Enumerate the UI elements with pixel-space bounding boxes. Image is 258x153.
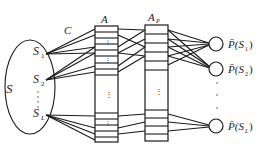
svg-text:): ) bbox=[249, 120, 253, 133]
layer-ap: A P ⋮ bbox=[145, 11, 168, 141]
diagram-canvas: S C S 1 S 2 S L bbox=[0, 0, 258, 153]
svg-text:⋮: ⋮ bbox=[105, 57, 111, 63]
input-node-sl: S L bbox=[33, 106, 45, 122]
svg-text:L: L bbox=[40, 114, 45, 122]
output-dots bbox=[216, 82, 217, 108]
svg-text:1: 1 bbox=[41, 52, 45, 60]
svg-text:2: 2 bbox=[41, 80, 45, 88]
output-node-l: P̄(S L ) bbox=[209, 119, 253, 134]
input-node-s2: S 2 bbox=[33, 72, 45, 88]
layer-a-label: A bbox=[100, 13, 108, 25]
output-node-1: P̄(S 1 ) bbox=[209, 37, 253, 52]
layer-ap-subscript: P bbox=[155, 18, 160, 24]
svg-text:): ) bbox=[249, 38, 253, 51]
svg-text:): ) bbox=[249, 63, 253, 76]
svg-text:P̄(S: P̄(S bbox=[227, 120, 244, 133]
svg-text:S: S bbox=[33, 72, 39, 86]
svg-text:P̄(S: P̄(S bbox=[227, 38, 244, 51]
layer-ap-label: A bbox=[147, 11, 155, 23]
connections-a-to-ap bbox=[118, 29, 145, 134]
output-node-2: P̄(S 2 ) bbox=[209, 62, 253, 77]
svg-text:⋮: ⋮ bbox=[105, 90, 113, 99]
svg-text:⋮: ⋮ bbox=[105, 120, 111, 126]
svg-text:1: 1 bbox=[245, 46, 248, 52]
svg-text:⋮: ⋮ bbox=[155, 87, 163, 96]
svg-text:S: S bbox=[33, 44, 39, 58]
layer-a: A ⋮ ⋮ ⋮ ⋮ bbox=[95, 13, 118, 142]
connections-s-to-a bbox=[46, 29, 95, 140]
svg-text:P̄(S: P̄(S bbox=[227, 63, 244, 76]
set-s-label: S bbox=[6, 81, 13, 96]
svg-text:2: 2 bbox=[245, 71, 248, 77]
svg-text:⋮: ⋮ bbox=[105, 39, 111, 45]
connection-c-label: C bbox=[64, 24, 72, 36]
svg-text:S: S bbox=[33, 106, 39, 120]
connections-ap-to-output bbox=[168, 30, 210, 131]
